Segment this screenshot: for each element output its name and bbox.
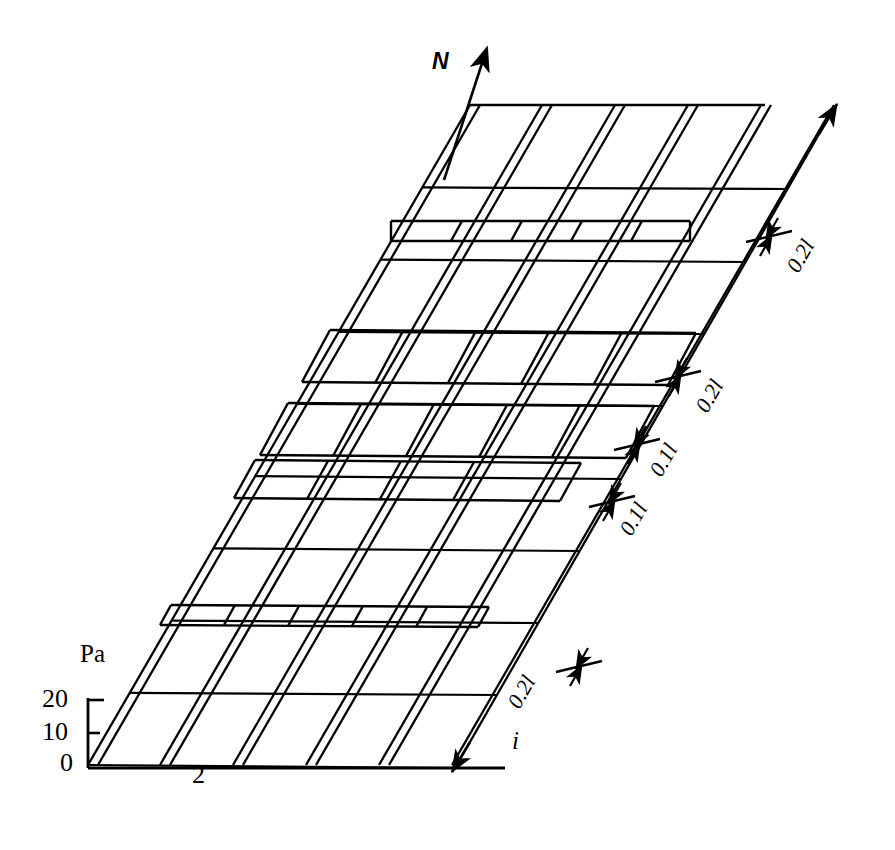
rail-4 xyxy=(379,105,771,765)
pa-tick-label-10: 10 xyxy=(42,717,68,747)
dimension-chain xyxy=(452,104,837,772)
rail-2 xyxy=(233,105,625,765)
axis-unit-pa: Pa xyxy=(80,640,105,668)
dim-line xyxy=(455,108,834,768)
rail-1 xyxy=(160,105,552,765)
figure-canvas: N Pa 20 10 0 2 i 0.2l 0.1l 0.1l 0.2l 0.2… xyxy=(0,0,895,850)
pa-tick-label-20: 20 xyxy=(42,684,68,714)
axis-label-i: i xyxy=(512,727,519,755)
rail-0 xyxy=(88,105,480,765)
diagram-svg xyxy=(0,0,895,850)
band-1 xyxy=(391,221,690,241)
axis-label-n: N xyxy=(432,48,449,75)
rail-5 xyxy=(452,105,834,765)
pa-tick-label-0: 0 xyxy=(60,748,73,778)
i-axis-tick-label-2: 2 xyxy=(192,760,205,790)
n-axis-arrow xyxy=(444,48,487,180)
surface-grid xyxy=(88,48,837,772)
